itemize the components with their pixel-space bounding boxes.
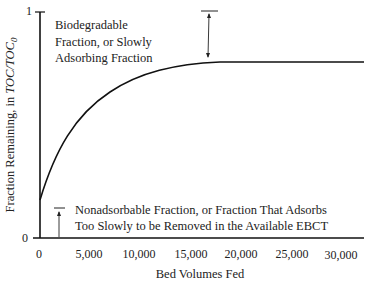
bottom-annotation-text: Nonadsorbable Fraction, or Fraction That… [75,203,330,233]
y-tick-label-0: 0 [22,231,28,245]
y-axis-label-var: TOC/TOC [3,41,17,93]
y-tick-label-1: 1 [26,4,32,18]
top-bracket-arrow [208,14,209,57]
chart: 1 0 0 5,000 10,000 15,000 20,000 25,000 … [0,0,368,289]
x-tick-label: 0 [36,247,42,261]
x-tick-label: 10,000 [123,247,156,261]
x-tick-label: 5,000 [76,247,103,261]
breakthrough-curve [40,62,364,200]
top-bracket-arrowhead-down [206,53,210,58]
y-axis-label: Fraction Remaining, in TOC/TOC0 [3,37,19,212]
top-bracket-arrowhead-up [207,13,211,18]
x-axis-label: Bed Volumes Fed [156,267,245,281]
bottom-bracket-arrowhead-up [57,211,61,216]
x-tick-label: 15,000 [175,247,208,261]
y-axis-label-sub: 0 [9,37,19,42]
x-tick-label: 25,000 [276,247,309,261]
x-tick-label: 20,000 [225,247,258,261]
x-tick-label: 30,000 [325,248,358,262]
y-axis-label-prefix: Fraction Remaining, in [3,94,17,213]
top-annotation-text: Biodegradable Fraction, or Slowly Adsorb… [55,18,155,65]
